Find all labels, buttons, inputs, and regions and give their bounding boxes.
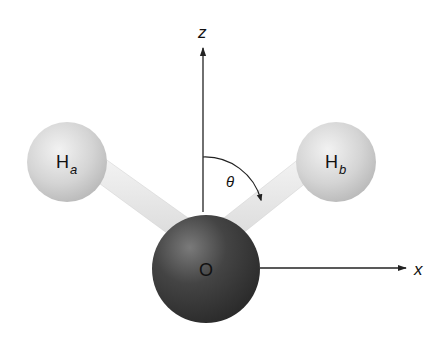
atom-ha: H a [27,122,107,202]
z-axis-label: z [197,23,207,42]
atom-ha-symbol: H [56,152,69,172]
atom-ha-subscript: a [70,162,77,177]
x-axis-label: x [413,260,423,279]
theta-label: θ [226,173,234,190]
atom-hb-symbol: H [325,152,338,172]
atom-o-symbol: O [199,260,213,280]
atom-hb: H b [296,122,376,202]
angle-theta: θ [203,157,261,200]
water-molecule-diagram: H a H b z θ O x [0,0,446,350]
x-axis: x [260,260,423,279]
atom-hb-subscript: b [339,162,346,177]
atom-o: O [152,215,260,323]
z-axis: z [197,23,207,212]
